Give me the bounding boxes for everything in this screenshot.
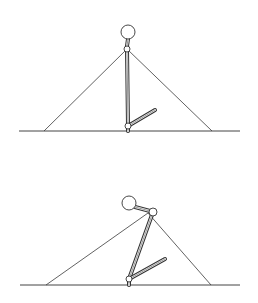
support-cables (46, 213, 211, 285)
mechanism-diagram (0, 0, 258, 303)
head-ball (122, 196, 136, 210)
panel-bent (20, 196, 240, 285)
upper-joint (124, 46, 130, 52)
lower-joint (125, 123, 131, 129)
panel-upright (19, 25, 240, 131)
lower-joint (126, 276, 132, 282)
lever-arm-core (128, 110, 155, 126)
head-ball (121, 25, 135, 39)
upper-joint (149, 208, 157, 216)
